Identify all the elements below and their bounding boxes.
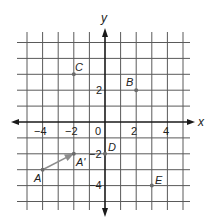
y-tick-label: −4 (89, 179, 102, 191)
x-tick-label: −4 (34, 125, 47, 137)
point-label: D (108, 141, 116, 153)
y-tick-label: 2 (96, 84, 102, 96)
x-tick-label: −2 (65, 125, 78, 137)
point-label: A (33, 172, 41, 184)
x-tick-label: 4 (163, 125, 169, 137)
y-tick-label: −2 (89, 148, 102, 160)
point-label: E (155, 174, 163, 186)
point-label: B (126, 76, 133, 88)
y-axis-up-arrow-icon (102, 28, 108, 37)
x-axis-label: x (197, 115, 205, 129)
coordinate-plane: x y −4 −2 0 2 4 2 −2 −4 A A' B C D E (0, 0, 212, 221)
x-tick-label: 0 (95, 125, 101, 137)
x-axis-right-arrow-icon (187, 119, 195, 125)
grid-lines (17, 32, 190, 210)
x-axis-left-arrow-icon (11, 119, 19, 125)
y-axis-down-arrow-icon (102, 208, 108, 217)
x-tick-label: 2 (131, 125, 137, 137)
point-label: A' (75, 156, 86, 168)
point-label: C (75, 61, 83, 73)
y-axis-label: y (100, 11, 108, 25)
